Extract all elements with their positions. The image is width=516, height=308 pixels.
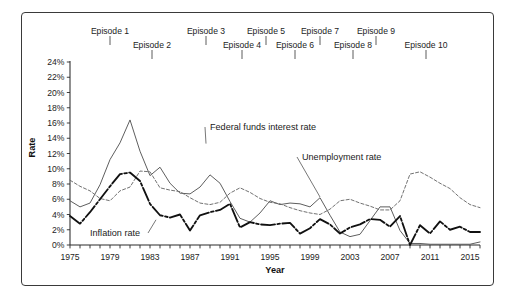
x-tick-label-2015: 2015 xyxy=(460,252,479,262)
episode-label-1: Episode 1 xyxy=(91,26,129,36)
x-tick-label-1987: 1987 xyxy=(180,252,199,262)
y-tick-label-16%: 16% xyxy=(47,118,65,128)
series-federal-funds xyxy=(70,120,480,244)
y-tick-label-10%: 10% xyxy=(47,164,65,174)
line-chart: Episode 1Episode 2Episode 3Episode 4Epis… xyxy=(0,0,516,308)
x-tick-label-1995: 1995 xyxy=(260,252,279,262)
y-tick-label-6%: 6% xyxy=(52,194,65,204)
y-tick-label-14%: 14% xyxy=(47,133,65,143)
y-tick-label-20%: 20% xyxy=(47,88,65,98)
x-tick-label-1979: 1979 xyxy=(100,252,119,262)
y-tick-label-12%: 12% xyxy=(47,149,65,159)
annotation-leader-1 xyxy=(205,127,206,144)
episode-label-6: Episode 6 xyxy=(276,40,314,50)
episode-label-10: Episode 10 xyxy=(404,40,447,50)
episode-label-2: Episode 2 xyxy=(133,40,171,50)
x-axis-title: Year xyxy=(265,265,285,275)
chart-figure: Episode 1Episode 2Episode 3Episode 4Epis… xyxy=(0,0,516,308)
x-tick-label-2003: 2003 xyxy=(340,252,359,262)
chart-canvas: Episode 1Episode 2Episode 3Episode 4Epis… xyxy=(0,0,516,308)
episode-label-7: Episode 7 xyxy=(301,26,339,36)
episode-label-4: Episode 4 xyxy=(223,40,261,50)
episode-label-5: Episode 5 xyxy=(247,26,285,36)
x-tick-label-1991: 1991 xyxy=(220,252,239,262)
unemployment-label: Unemployment rate xyxy=(302,152,381,162)
x-tick-label-2011: 2011 xyxy=(421,252,440,262)
y-tick-label-8%: 8% xyxy=(52,179,65,189)
episode-label-8: Episode 8 xyxy=(334,40,372,50)
annotation-leader-2 xyxy=(297,157,320,197)
series-unemployment xyxy=(70,171,480,214)
x-tick-label-1999: 1999 xyxy=(300,252,319,262)
y-tick-label-18%: 18% xyxy=(47,103,65,113)
y-tick-label-4%: 4% xyxy=(52,210,65,220)
episode-label-3: Episode 3 xyxy=(187,26,225,36)
x-tick-label-1983: 1983 xyxy=(140,252,159,262)
y-axis-title: Rate xyxy=(27,138,37,158)
federal-funds-label: Federal funds interest rate xyxy=(210,122,316,132)
y-tick-label-22%: 22% xyxy=(47,72,65,82)
x-tick-label-2007: 2007 xyxy=(380,252,399,262)
x-tick-label-1975: 1975 xyxy=(60,252,79,262)
annotation-leader-3 xyxy=(148,220,156,233)
episode-label-9: Episode 9 xyxy=(357,26,395,36)
y-tick-label-24%: 24% xyxy=(47,57,65,67)
y-tick-label-0%: 0% xyxy=(52,240,65,250)
inflation-label: Inflation rate xyxy=(90,228,140,238)
y-tick-label-2%: 2% xyxy=(52,225,65,235)
